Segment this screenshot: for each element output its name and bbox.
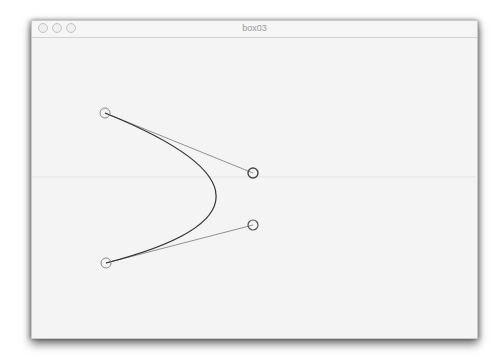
bezier-drawing <box>0 0 500 362</box>
